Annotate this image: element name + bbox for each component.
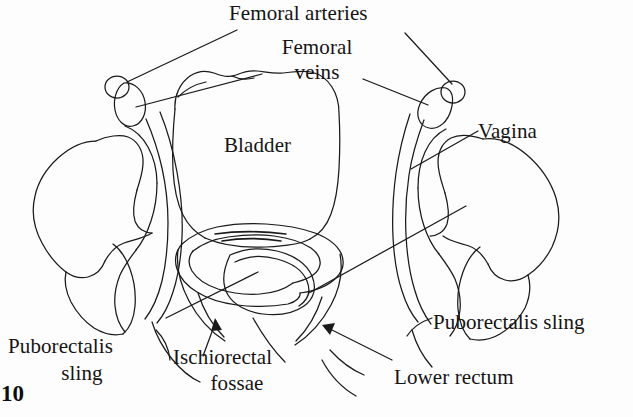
puborectalis-sling-inner	[189, 235, 320, 294]
leader-femoral-veins-left	[136, 74, 262, 107]
ischium-left	[65, 244, 135, 335]
label-puborectalis-sling-left-line1: Puborectalis	[8, 335, 113, 358]
leader-vagina	[411, 131, 478, 169]
anal-verge-curve	[322, 360, 356, 396]
figure-page: Femoral arteries Femoral veins Bladder V…	[0, 0, 633, 417]
label-bladder: Bladder	[224, 134, 291, 157]
sling-crossing-line-right	[309, 206, 466, 293]
femoral-neck-right	[393, 114, 431, 324]
leader-femoral-veins-right	[363, 79, 428, 105]
label-puborectalis-sling-right: Puborectalis sling	[433, 311, 585, 334]
label-ischiorectal-fossae-line2: fossae	[173, 372, 301, 395]
leader-puborectalis-left	[156, 330, 170, 360]
page-number: 10	[1, 381, 24, 407]
leader-lower-rectum	[322, 323, 392, 360]
label-femoral-veins-line1: Femoral	[262, 36, 372, 59]
femoral-vein-left	[114, 83, 145, 126]
femoral-artery-left	[105, 76, 129, 98]
label-ischiorectal-fossae-line1: Ischiorectal	[173, 346, 272, 369]
bladder-outline	[173, 71, 340, 247]
label-femoral-veins-line2: veins	[262, 61, 372, 84]
leader-femoral-arteries-right	[405, 33, 452, 84]
ilium-left	[33, 136, 152, 278]
perineal-curve-center-right	[330, 350, 364, 375]
femoral-head-right	[418, 129, 460, 336]
leader-femoral-arteries-left	[127, 30, 237, 82]
label-vagina: Vagina	[478, 120, 537, 143]
perineal-curve-right	[412, 330, 432, 367]
label-puborectalis-sling-left-line2: sling	[8, 362, 156, 385]
label-femoral-arteries: Femoral arteries	[229, 2, 368, 25]
ilium-right	[430, 135, 559, 280]
label-lower-rectum: Lower rectum	[394, 366, 514, 389]
femoral-neck-left	[145, 112, 182, 323]
